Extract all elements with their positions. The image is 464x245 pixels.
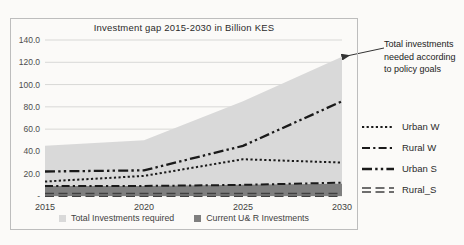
series-line-sample-icon xyxy=(361,121,395,133)
series-legend-item-Urban W: Urban W xyxy=(361,120,463,133)
series-legend-item-Rural W: Rural W xyxy=(361,141,463,154)
series-line-sample-icon xyxy=(361,142,395,154)
series-line-sample-icon xyxy=(361,184,395,196)
annotation-text: Total investments needed according to po… xyxy=(384,38,464,76)
area-legend: Total Investments required Current U& R … xyxy=(10,213,358,223)
series-legend-item-Urban S: Urban S xyxy=(361,162,463,175)
current-investments-swatch-icon xyxy=(194,215,201,222)
chart-frame xyxy=(10,18,358,230)
legend-item-current-investments: Current U& R Investments xyxy=(194,213,309,223)
legend-label: Total Investments required xyxy=(71,213,174,223)
series-legend-label: Urban S xyxy=(402,163,437,174)
legend-label: Current U& R Investments xyxy=(206,213,309,223)
series-legend-label: Rural W xyxy=(402,142,436,153)
total-investments-swatch-icon xyxy=(59,215,66,222)
series-legend-label: Urban W xyxy=(402,121,439,132)
chart-title: Investment gap 2015-2030 in Billion KES xyxy=(10,22,358,33)
series-legend-label: Rural_S xyxy=(402,184,436,195)
series-legend: Urban WRural WUrban SRural_S xyxy=(361,120,463,196)
series-legend-item-Rural_S: Rural_S xyxy=(361,183,463,196)
series-line-sample-icon xyxy=(361,163,395,175)
legend-item-total-investments: Total Investments required xyxy=(59,213,174,223)
